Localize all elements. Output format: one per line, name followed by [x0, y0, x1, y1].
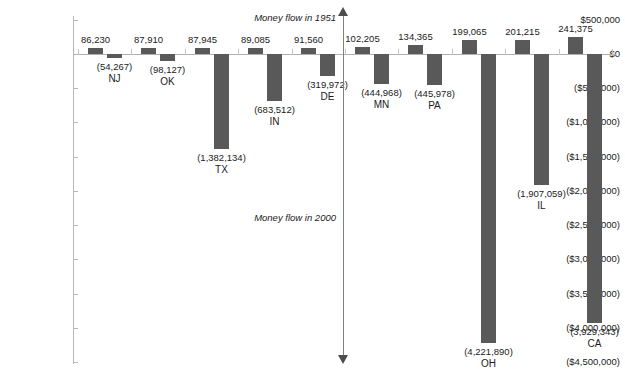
- value-label-2000-ca: (3,929,343): [550, 326, 625, 337]
- annotation-money-flow-1951: Money flow in 1951: [178, 12, 336, 23]
- bar-2000-in: [267, 54, 282, 101]
- bar-1951-il: [515, 40, 530, 54]
- flow-direction-arrow-line: [343, 14, 344, 358]
- bar-2000-mn: [374, 54, 389, 84]
- bar-2000-de: [320, 54, 335, 76]
- category-label-tx: TX: [177, 164, 267, 175]
- flow-direction-arrow-up-icon: [338, 7, 348, 16]
- value-label-2000-tx: (1,382,134): [177, 152, 267, 163]
- value-label-2000-oh: (4,221,890): [444, 346, 534, 357]
- annotation-money-flow-2000: Money flow in 2000: [178, 212, 336, 223]
- value-label-1951-ca: 241,375: [536, 23, 616, 34]
- category-label-ca: CA: [550, 338, 625, 349]
- bar-1951-oh: [462, 40, 477, 54]
- bar-1951-mn: [355, 47, 370, 54]
- bar-2000-oh: [481, 54, 496, 343]
- value-label-2000-pa: (445,978): [390, 88, 480, 99]
- bar-1951-tx: [195, 48, 210, 54]
- bar-2000-ca: [587, 54, 602, 323]
- flow-direction-arrow-down-icon: [338, 355, 348, 364]
- bar-1951-ca: [568, 37, 583, 54]
- bar-1951-ok: [141, 48, 156, 54]
- value-label-2000-in: (683,512): [230, 104, 320, 115]
- category-label-ok: OK: [123, 76, 213, 87]
- bar-1951-nj: [88, 48, 103, 54]
- bar-1951-pa: [408, 45, 423, 54]
- value-label-2000-il: (1,907,059): [497, 188, 587, 199]
- bar-1951-in: [248, 48, 263, 54]
- category-label-in: IN: [230, 116, 320, 127]
- category-label-oh: OH: [444, 358, 534, 369]
- bar-2000-tx: [214, 54, 229, 149]
- bar-2000-pa: [427, 54, 442, 85]
- category-label-pa: PA: [390, 100, 480, 111]
- bar-2000-ok: [160, 54, 175, 61]
- bar-1951-de: [301, 48, 316, 54]
- value-label-2000-ok: (98,127): [123, 64, 213, 75]
- bar-2000-nj: [107, 54, 122, 58]
- category-label-il: IL: [497, 200, 587, 211]
- bar-2000-il: [534, 54, 549, 185]
